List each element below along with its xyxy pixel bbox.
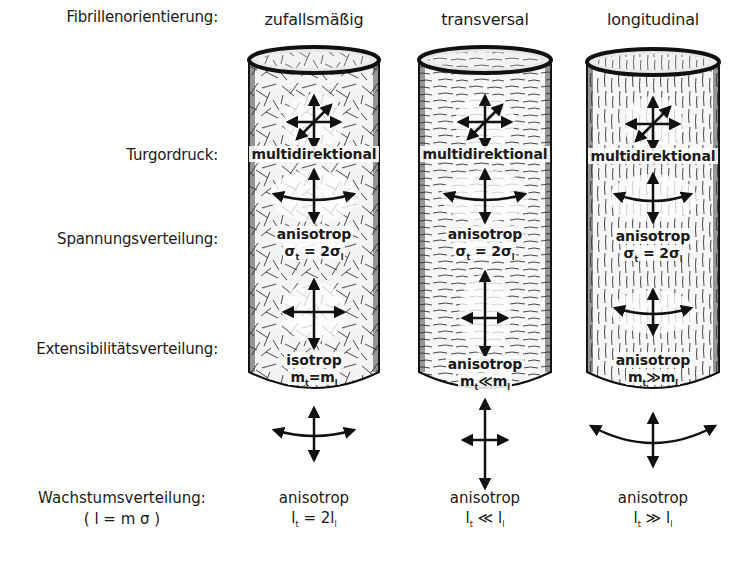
extensibility-label-random: isotrop mt=ml xyxy=(244,352,384,392)
growth-label-longitudinal: anisotrop lt ≫ ll xyxy=(583,488,723,535)
growth-arrow-icon-longitudinal xyxy=(591,414,715,466)
extensibility-label-transversal: anisotrop mt≪ml xyxy=(415,356,555,396)
turgor-label-longitudinal: multidirektional xyxy=(583,148,723,165)
extensibility-label-longitudinal: anisotrop mt≫ml xyxy=(583,352,723,392)
growth-arrows xyxy=(274,400,715,488)
growth-label-transversal: anisotrop lt ≪ ll xyxy=(415,488,555,535)
cell-wall-diagram xyxy=(0,0,743,566)
turgor-label-transversal: multidirektional xyxy=(415,146,555,163)
stress-label-random: anisotrop σt = 2σl xyxy=(244,226,384,266)
turgor-label-random: multidirektional xyxy=(244,146,384,163)
growth-arrow-icon-random xyxy=(274,408,354,460)
stress-label-longitudinal: anisotrop σt = 2σl xyxy=(583,228,723,268)
growth-label-random: anisotrop lt = 2ll xyxy=(244,488,384,535)
stress-label-transversal: anisotrop σt = 2σl xyxy=(415,226,555,266)
growth-arrow-icon-transversal xyxy=(463,400,507,488)
